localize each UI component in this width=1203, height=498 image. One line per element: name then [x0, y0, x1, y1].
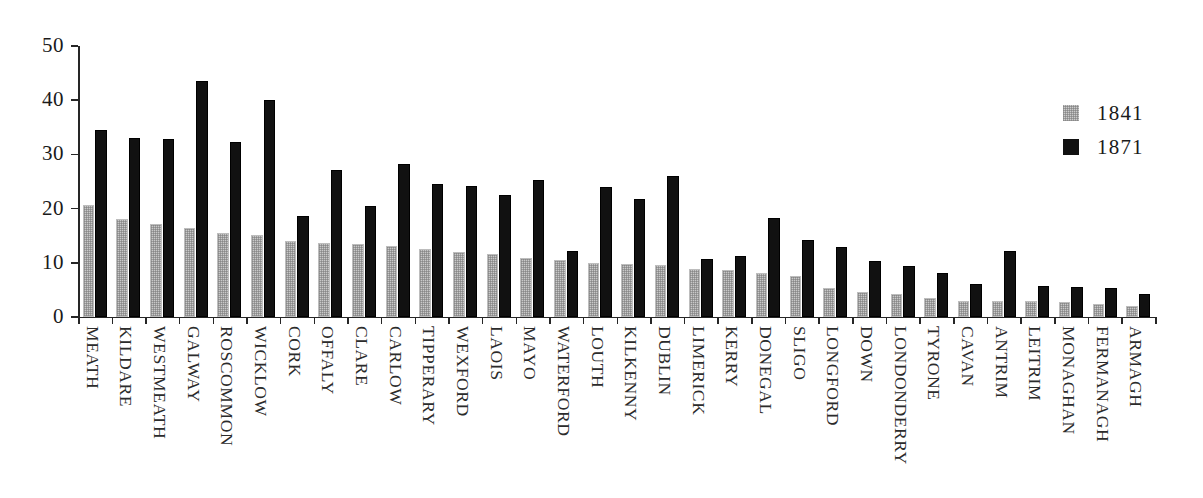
x-axis-tick — [415, 317, 417, 324]
x-axis-category-label: LONGFORD — [824, 326, 842, 426]
bar-group — [448, 46, 482, 317]
x-axis-category-label: SLIGO — [790, 326, 808, 381]
x-axis-category-label: KILDARE — [117, 326, 135, 407]
bar-chart: 01020304050 MEATHKILDAREWESTMEATHGALWAYR… — [0, 0, 1203, 498]
bar-1841 — [1126, 306, 1138, 317]
bar-1871 — [230, 142, 242, 317]
x-axis-category-label: DUBLIN — [655, 326, 673, 396]
x-axis-tick — [448, 317, 450, 324]
y-axis-tick — [71, 154, 78, 156]
bar-group — [1020, 46, 1054, 317]
bar-1871 — [1105, 288, 1117, 317]
bar-1871 — [701, 259, 713, 317]
x-axis-tick — [650, 317, 652, 324]
bar-1871 — [264, 100, 276, 317]
bar-1841 — [554, 260, 566, 317]
x-axis-tick — [1088, 317, 1090, 324]
bar-group — [112, 46, 146, 317]
bar-1871 — [869, 261, 881, 317]
bar-1841 — [958, 301, 970, 317]
x-axis-tick — [953, 317, 955, 324]
y-axis-tick-label: 10 — [42, 252, 64, 273]
bar-1841 — [790, 276, 802, 317]
bar-1841 — [318, 243, 330, 317]
bar-group — [280, 46, 314, 317]
bar-1841 — [655, 265, 667, 317]
x-axis-tick — [987, 317, 989, 324]
y-axis-tick-label: 30 — [42, 143, 64, 164]
y-axis-tick — [71, 316, 78, 318]
bar-group — [381, 46, 415, 317]
bar-group — [179, 46, 213, 317]
bar-1871 — [499, 195, 511, 317]
x-axis-tick — [818, 317, 820, 324]
y-axis-tick-labels: 01020304050 — [0, 0, 64, 498]
bar-1841 — [217, 233, 229, 317]
bar-1841 — [352, 244, 364, 317]
bar-1871 — [398, 164, 410, 317]
bar-1871 — [1139, 294, 1151, 317]
x-axis-tick — [1020, 317, 1022, 324]
y-axis-tick — [71, 262, 78, 264]
x-axis-category-label: DOWN — [857, 326, 875, 383]
bar-1841 — [823, 288, 835, 317]
x-axis-category-label: CAVAN — [958, 326, 976, 387]
legend-swatch-1871-icon — [1063, 139, 1079, 155]
bar-1871 — [600, 187, 612, 317]
x-axis-category-label: KILKENNY — [622, 326, 640, 421]
x-axis-category-label: CORK — [285, 326, 303, 377]
y-axis-tick — [71, 99, 78, 101]
x-axis-category-label: CLARE — [353, 326, 371, 386]
bar-1871 — [768, 218, 780, 317]
bar-group — [919, 46, 953, 317]
x-axis-tick — [886, 317, 888, 324]
x-axis-category-label: FERMANAGH — [1093, 326, 1111, 442]
bar-1871 — [533, 180, 545, 317]
bar-1871 — [802, 240, 814, 318]
bar-1841 — [756, 273, 768, 317]
bar-1841 — [1059, 302, 1071, 317]
x-axis-tick — [145, 317, 147, 324]
bar-group — [145, 46, 179, 317]
bar-1841 — [386, 246, 398, 317]
bar-1871 — [297, 216, 309, 317]
bar-1841 — [992, 301, 1004, 317]
bar-group — [818, 46, 852, 317]
bar-1841 — [588, 263, 600, 317]
bar-1871 — [331, 170, 343, 317]
legend-label-1841: 1841 — [1097, 103, 1144, 124]
x-axis-category-label: WESTMEATH — [151, 326, 169, 439]
bar-group — [583, 46, 617, 317]
bar-1871 — [970, 284, 982, 317]
x-axis-tick — [112, 317, 114, 324]
bar-1841 — [116, 219, 128, 317]
x-axis-category-label: ANTRIM — [992, 326, 1010, 399]
x-axis-tick — [280, 317, 282, 324]
bar-1871 — [667, 176, 679, 317]
bar-1841 — [857, 292, 869, 317]
bar-group — [987, 46, 1021, 317]
x-axis-tick — [919, 317, 921, 324]
bar-group — [684, 46, 718, 317]
bar-group — [1054, 46, 1088, 317]
bar-1841 — [453, 252, 465, 317]
bar-group — [1088, 46, 1122, 317]
x-axis-tick — [347, 317, 349, 324]
x-axis-tick — [617, 317, 619, 324]
x-axis-tick — [78, 317, 80, 324]
bar-group — [482, 46, 516, 317]
bar-1841 — [419, 249, 431, 317]
bar-group — [1121, 46, 1155, 317]
bar-group — [717, 46, 751, 317]
bar-group — [953, 46, 987, 317]
bar-1871 — [129, 138, 141, 317]
x-axis-category-label: OFFALY — [319, 326, 337, 395]
bar-1871 — [196, 81, 208, 317]
legend-label-1871: 1871 — [1097, 137, 1144, 158]
chart-legend: 1841 1871 — [1063, 96, 1193, 164]
bar-group — [617, 46, 651, 317]
bar-1871 — [1071, 287, 1083, 317]
bar-1871 — [937, 273, 949, 317]
bar-group — [852, 46, 886, 317]
x-axis-category-label: TYRONE — [925, 326, 943, 401]
